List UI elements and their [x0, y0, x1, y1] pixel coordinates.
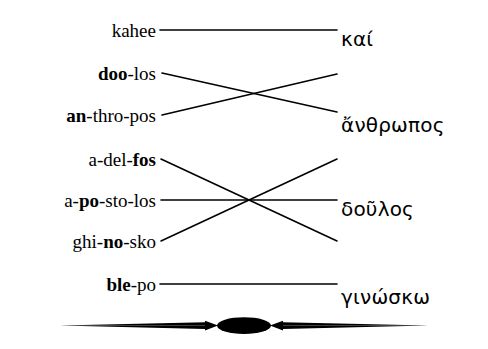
exercise-page: kahee καί doo-los ἄνθρωπος an-thro-pos δ…	[0, 0, 488, 349]
list-item: ghi-no-sko ἀδελφός	[0, 224, 488, 258]
list-item: ble-po βλέπω	[0, 267, 488, 301]
list-item: doo-los ἄνθρωπος	[0, 56, 488, 90]
transliteration-apostolos: a-po-sto-los	[0, 191, 160, 210]
transliteration-kahee: kahee	[0, 21, 160, 40]
transliteration-doolos: doo-los	[0, 64, 160, 83]
greek-word-kai: καί	[341, 29, 373, 49]
list-item: kahee καί	[0, 13, 488, 47]
transliteration-anthropos: an-thro-pos	[0, 106, 160, 125]
transliteration-blepo: ble-po	[0, 275, 160, 294]
list-item: an-thro-pos δοῦλος	[0, 98, 488, 132]
transliteration-ghinosko: ghi-no-sko	[0, 232, 160, 251]
list-item: a-po-sto-los ἀπόστολος	[0, 183, 488, 217]
decorative-divider-icon	[0, 300, 488, 349]
transliteration-adelfos: a-del-fos	[0, 150, 160, 169]
list-item: a-del-fos γινώσκω	[0, 142, 488, 176]
